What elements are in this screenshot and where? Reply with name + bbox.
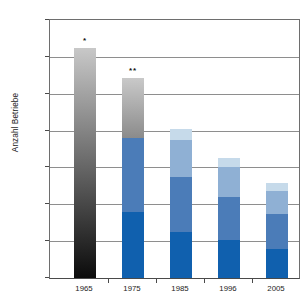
bar-segment-medium-blue bbox=[122, 138, 144, 212]
bar-segment-medium-blue bbox=[218, 197, 240, 240]
x-axis-tick-label: 1985 bbox=[154, 284, 206, 293]
bar-segment-medium-blue bbox=[170, 177, 192, 232]
y-axis-tick-mark bbox=[45, 56, 49, 57]
x-axis-tick-label: 1996 bbox=[202, 284, 254, 293]
bar-1985[interactable] bbox=[170, 20, 192, 278]
bar-1965[interactable]: * bbox=[74, 20, 96, 278]
x-axis-tick-mark bbox=[156, 278, 157, 283]
x-axis-tick-mark bbox=[252, 278, 253, 283]
bar-1975[interactable]: ** bbox=[122, 20, 144, 278]
x-axis-tick-label: 1965 bbox=[58, 284, 110, 293]
x-axis-tick-mark bbox=[204, 278, 205, 283]
y-axis-title: Anzahl Betriebe bbox=[11, 68, 20, 178]
x-axis-tick-label: 1975 bbox=[106, 284, 158, 293]
y-axis-tick-mark bbox=[45, 130, 49, 131]
y-axis-tick-mark bbox=[45, 19, 49, 20]
bar-segment-pale-blue bbox=[170, 129, 192, 140]
bar-segment-pale-blue bbox=[218, 158, 240, 167]
x-axis-tick-label: 2005 bbox=[250, 284, 302, 293]
bars-group: *** bbox=[50, 20, 299, 278]
y-axis-tick-mark bbox=[45, 203, 49, 204]
bar-segment-pale-blue bbox=[266, 183, 288, 191]
bar-segment-dark-blue bbox=[218, 240, 240, 278]
y-axis-tick-mark bbox=[45, 277, 49, 278]
x-axis-tick-mark bbox=[108, 278, 109, 283]
chart-container: Anzahl Betriebe *** 010'00020'00030'0004… bbox=[0, 0, 308, 298]
bar-annotation-1965: * bbox=[74, 37, 96, 45]
bar-segment-light-blue bbox=[170, 140, 192, 177]
bar-segment-light-blue bbox=[218, 167, 240, 196]
y-axis-tick-mark bbox=[45, 166, 49, 167]
plot-area: *** bbox=[49, 19, 300, 279]
y-axis-tick-mark bbox=[45, 93, 49, 94]
bar-1996[interactable] bbox=[218, 20, 240, 278]
bar-segment-light-blue bbox=[266, 191, 288, 213]
bar-segment-gradient-gray bbox=[122, 78, 144, 138]
y-axis-tick-mark bbox=[45, 240, 49, 241]
bar-segment-gradient-black-gray bbox=[74, 48, 96, 278]
bar-2005[interactable] bbox=[266, 20, 288, 278]
bar-segment-medium-blue bbox=[266, 214, 288, 249]
bar-segment-dark-blue bbox=[122, 212, 144, 278]
bar-segment-dark-blue bbox=[170, 232, 192, 278]
bar-segment-dark-blue bbox=[266, 249, 288, 278]
bar-annotation-1975: ** bbox=[122, 67, 144, 75]
